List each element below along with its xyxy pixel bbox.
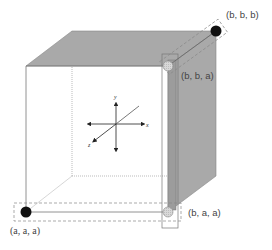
axis-y-label: y xyxy=(113,94,117,100)
label-baa: (b, a, a) xyxy=(188,207,221,218)
cube-diagram: y x z (a, a, a) (b, b, b) (b, b, a) (b, … xyxy=(0,0,272,250)
axis-x-label: x xyxy=(145,122,149,128)
label-bbb: (b, b, b) xyxy=(226,9,259,20)
point-aaa xyxy=(21,207,32,218)
point-baa xyxy=(163,207,173,217)
axis-z-label: z xyxy=(87,142,91,148)
point-bba xyxy=(163,61,173,71)
axes-icon: y x z xyxy=(87,94,149,150)
point-bbb xyxy=(211,26,222,37)
label-bba: (b, b, a) xyxy=(181,70,214,81)
label-aaa: (a, a, a) xyxy=(10,225,40,237)
edge-strip xyxy=(168,60,176,210)
